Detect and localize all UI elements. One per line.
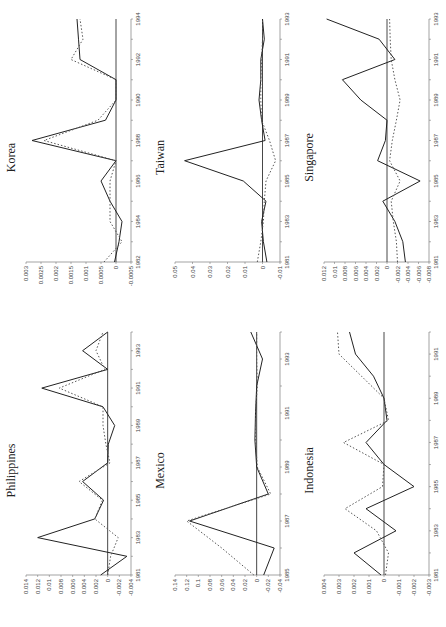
series-dotted-line [59,332,118,575]
svg-text:-0.04: -0.04 [277,578,283,592]
svg-text:-0.01: -0.01 [277,265,283,279]
svg-text:1985: 1985 [433,479,439,493]
panel-title: Philippines [4,314,19,627]
series-dotted-line [338,332,389,575]
svg-text:-0.02: -0.02 [265,578,271,592]
panel-indonesia: -0.003-0.002-0.00100.0010.0020.0030.0041… [298,314,446,627]
svg-text:1991: 1991 [284,52,290,66]
svg-text:1989: 1989 [135,418,141,432]
series-dotted-line [257,19,275,262]
svg-text:1993: 1993 [284,352,290,366]
svg-text:1985: 1985 [433,174,439,188]
svg-text:1987: 1987 [135,456,141,470]
svg-text:0.01: 0.01 [332,265,338,277]
svg-text:0.004: 0.004 [321,578,327,594]
svg-text:1985: 1985 [284,568,290,582]
svg-text:1991: 1991 [135,381,141,395]
svg-text:1987: 1987 [284,133,290,147]
series-solid-line [190,332,275,575]
svg-text:-0.0005: -0.0005 [128,265,134,286]
svg-text:1981: 1981 [284,255,290,269]
svg-text:1989: 1989 [284,460,290,474]
svg-text:0.012: 0.012 [35,578,41,594]
figure-rotated: -0.004-0.00200.0020.0040.0060.0080.010.0… [0,0,446,627]
svg-text:-0.008: -0.008 [426,265,432,283]
svg-text:1987: 1987 [284,514,290,528]
svg-text:0.003: 0.003 [336,578,342,594]
panel-singapore: -0.008-0.006-0.004-0.00200.0020.0040.006… [298,1,446,314]
panel-korea: -0.000500.00050.0010.00150.0020.00250.00… [0,1,149,314]
svg-text:0.008: 0.008 [342,265,348,281]
svg-text:1985: 1985 [135,493,141,507]
panel-title: Taiwan [153,1,168,314]
series-solid-line [185,19,267,262]
svg-text:1987: 1987 [433,133,439,147]
svg-text:0.003: 0.003 [23,265,29,281]
svg-text:1981: 1981 [433,255,439,269]
series-solid-line [350,332,415,575]
series-solid-line [38,332,127,575]
svg-text:0.14: 0.14 [172,578,178,590]
svg-text:0.06: 0.06 [219,578,225,590]
line-chart: -0.008-0.006-0.004-0.00200.0020.0040.006… [298,1,446,314]
svg-text:1983: 1983 [135,530,141,544]
svg-text:0.002: 0.002 [374,265,380,281]
panel-taiwan: -0.0100.010.020.030.040.0519811983198519… [149,1,298,314]
svg-text:-0.002: -0.002 [395,265,401,283]
svg-text:0.002: 0.002 [93,578,99,594]
svg-text:0.006: 0.006 [70,578,76,594]
svg-text:1992: 1992 [135,52,141,66]
svg-text:0.02: 0.02 [242,578,248,590]
svg-text:1988: 1988 [135,133,141,147]
svg-text:0.04: 0.04 [190,265,196,277]
svg-text:1983: 1983 [433,214,439,228]
svg-text:0.012: 0.012 [321,265,327,281]
svg-text:-0.002: -0.002 [411,578,417,596]
svg-text:1994: 1994 [135,12,141,26]
svg-text:1991: 1991 [284,406,290,420]
svg-text:0.0005: 0.0005 [98,265,104,284]
line-chart: -0.0100.010.020.030.040.0519811983198519… [149,1,298,314]
svg-text:0.05: 0.05 [172,265,178,277]
svg-text:0.004: 0.004 [81,578,87,594]
svg-text:1981: 1981 [433,568,439,582]
svg-text:0.01: 0.01 [242,265,248,277]
svg-text:0.12: 0.12 [184,578,190,590]
svg-text:-0.004: -0.004 [128,578,134,596]
svg-text:0.02: 0.02 [225,265,231,277]
svg-text:0.006: 0.006 [353,265,359,281]
svg-text:1986: 1986 [135,174,141,188]
svg-text:1990: 1990 [135,93,141,107]
panel-title: Singapore [302,1,317,314]
svg-text:0.0015: 0.0015 [68,265,74,284]
panel-title: Mexico [153,314,168,627]
svg-text:0.002: 0.002 [53,265,59,281]
svg-text:1983: 1983 [433,523,439,537]
svg-text:0: 0 [260,265,266,269]
svg-text:1989: 1989 [433,93,439,107]
line-chart: -0.003-0.002-0.00100.0010.0020.0030.0041… [298,314,446,627]
svg-text:1993: 1993 [433,12,439,26]
svg-text:0: 0 [254,578,260,582]
line-chart: -0.000500.00050.0010.00150.0020.00250.00… [0,1,149,314]
series-solid-line [327,19,421,262]
svg-text:0.1: 0.1 [195,578,201,587]
svg-text:0.002: 0.002 [351,578,357,594]
series-dotted-line [187,332,271,575]
panel-title: Indonesia [302,314,317,627]
svg-text:-0.004: -0.004 [405,265,411,283]
svg-text:-0.002: -0.002 [116,578,122,596]
svg-text:-0.001: -0.001 [396,578,402,596]
series-dotted-line [44,19,122,262]
svg-text:1982: 1982 [135,255,141,269]
svg-text:0: 0 [113,265,119,269]
panel-mexico: -0.04-0.0200.020.040.060.080.10.120.1419… [149,314,298,627]
svg-text:0.008: 0.008 [58,578,64,594]
svg-text:-0.006: -0.006 [416,265,422,283]
svg-text:1993: 1993 [284,12,290,26]
svg-text:0.03: 0.03 [207,265,213,277]
svg-text:0: 0 [105,578,111,582]
svg-text:0.014: 0.014 [23,578,29,594]
svg-text:0.04: 0.04 [230,578,236,590]
svg-text:1981: 1981 [135,568,141,582]
